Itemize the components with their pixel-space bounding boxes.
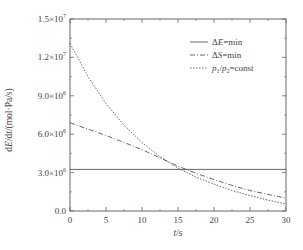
- axes: 0510152025300.03.0×1066.0×1069.0×1061.2×…: [38, 13, 291, 225]
- legend-label: p1/p2=const: [211, 63, 254, 74]
- y-tick-label: 0.0: [55, 206, 67, 216]
- y-axis-label: dE/dt/(mol·Pa/s): [4, 88, 15, 151]
- legend-label: ΔE=min: [212, 37, 243, 47]
- x-tick-label: 15: [174, 215, 184, 225]
- series-line-1: [70, 123, 286, 199]
- x-tick-label: 0: [68, 215, 73, 225]
- legend: ΔE=minΔS=minp1/p2=const: [190, 37, 254, 74]
- series-line-2: [70, 43, 286, 204]
- x-tick-label: 10: [138, 215, 148, 225]
- y-tick-label: 1.2×107: [38, 51, 66, 62]
- x-tick-label: 25: [246, 215, 256, 225]
- chart-canvas: 0510152025300.03.0×1066.0×1069.0×1061.2×…: [0, 0, 303, 250]
- axis-labels: t/sdE/dt/(mol·Pa/s): [4, 88, 183, 238]
- x-tick-label: 20: [210, 215, 220, 225]
- series-layer: [70, 43, 286, 204]
- y-tick-label: 3.0×106: [38, 167, 66, 178]
- y-tick-label: 6.0×106: [38, 128, 66, 139]
- plot-frame: [70, 19, 286, 211]
- x-tick-label: 5: [104, 215, 109, 225]
- y-tick-label: 1.5×107: [38, 13, 66, 24]
- x-axis-label: t/s: [174, 228, 183, 238]
- x-tick-label: 30: [282, 215, 292, 225]
- y-tick-label: 9.0×106: [38, 90, 66, 101]
- legend-label: ΔS=min: [212, 50, 242, 60]
